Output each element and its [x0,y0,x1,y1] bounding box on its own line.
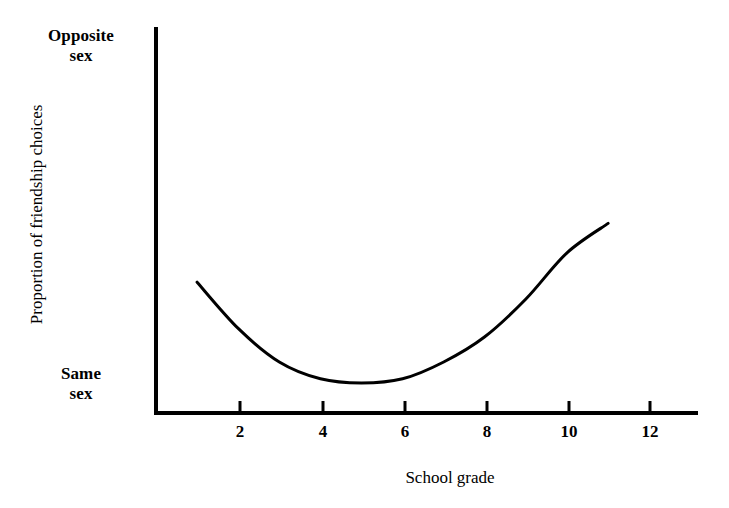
y-axis-top-label-line1: Opposite [48,26,114,45]
y-axis-top-label-line2: sex [70,46,93,65]
x-tick-label-12: 12 [620,422,680,442]
y-axis-bottom-label-line1: Same [61,364,101,383]
y-axis-bottom-label-line2: sex [70,384,93,403]
friendship-choice-curve [197,223,608,383]
x-tick-label-6: 6 [375,422,435,442]
x-tick-label-2: 2 [210,422,270,442]
x-tick-label-10: 10 [539,422,599,442]
figure-canvas: Oppositesex Samesex Proportion of friend… [0,0,729,508]
y-axis-title: Proportion of friendship choices [28,44,47,384]
x-tick-label-4: 4 [293,422,353,442]
x-axis-title: School grade [155,468,729,488]
x-tick-label-8: 8 [457,422,517,442]
